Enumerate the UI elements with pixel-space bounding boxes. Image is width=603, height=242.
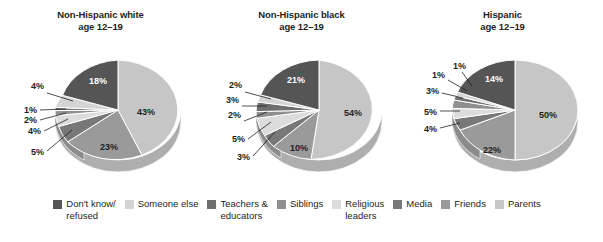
slice-value-media: 3% xyxy=(237,152,250,162)
legend-item[interactable]: Media xyxy=(393,198,432,210)
chart-panel-non-hispanic-black: Non-Hispanic black age 12–19 xyxy=(201,0,402,192)
slice-value-friends: 22% xyxy=(483,145,501,155)
slice-value-religious-leaders: 5% xyxy=(232,134,245,144)
slice-value-parents: 54% xyxy=(344,108,362,118)
pie-chart-area: 54% 10% 21% 2% 3% 2% 5% 3% xyxy=(201,38,402,192)
slice-value-dont-know: 14% xyxy=(485,74,503,84)
slice-value-media: 5% xyxy=(31,147,44,157)
legend-swatch-icon xyxy=(207,200,216,209)
slice-value-teachers-educators: 3% xyxy=(226,95,239,105)
legend-item-label: Siblings xyxy=(290,198,323,210)
panel-title-line1: Hispanic xyxy=(402,9,603,21)
slice-value-siblings: 3% xyxy=(426,86,439,96)
slice-value-friends: 23% xyxy=(100,142,118,152)
slice-value-someone-else: 1% xyxy=(453,61,466,71)
legend-item[interactable]: Don't know/ refused xyxy=(53,198,115,221)
legend-item-label: Parents xyxy=(508,198,541,210)
slice-value-parents: 50% xyxy=(539,110,557,120)
chart-legend: Don't know/ refusedSomeone elseTeachers … xyxy=(0,193,603,242)
legend-item[interactable]: Teachers & educators xyxy=(207,198,268,221)
slice-value-religious-leaders: 4% xyxy=(28,126,41,136)
legend-swatch-icon xyxy=(332,200,341,209)
panel-title-line2: age 12–19 xyxy=(201,21,402,33)
legend-swatch-icon xyxy=(393,200,402,209)
legend-item[interactable]: Siblings xyxy=(277,198,323,210)
slice-value-someone-else: 2% xyxy=(229,80,242,90)
slice-value-friends: 10% xyxy=(290,143,308,153)
pie-chart-area: 50% 22% 14% 1% 1% 3% 5% 4% xyxy=(402,38,603,192)
pie-chart-area: 43% 23% 18% 4% 1% 2% 4% 5% xyxy=(0,38,201,192)
legend-swatch-icon xyxy=(277,200,286,209)
chart-panel-hispanic: Hispanic age 12–19 xyxy=(402,0,603,192)
slice-value-dont-know: 18% xyxy=(89,76,107,86)
slice-parents xyxy=(311,60,372,159)
legend-swatch-icon xyxy=(441,200,450,209)
pie-svg: 54% 10% 21% 2% 3% 2% 5% 3% xyxy=(201,38,402,192)
legend-item[interactable]: Religious leaders xyxy=(332,198,384,221)
panel-title-line2: age 12–19 xyxy=(0,21,201,33)
legend-item-label: Religious leaders xyxy=(345,198,384,221)
panel-title: Non-Hispanic white age 12–19 xyxy=(0,9,201,32)
slice-value-siblings: 2% xyxy=(228,110,241,120)
pie-charts-row: Non-Hispanic white age 12–19 xyxy=(0,0,603,192)
legend-item-label: Media xyxy=(406,198,432,210)
slice-value-religious-leaders: 5% xyxy=(424,107,437,117)
slice-value-teachers-educators: 1% xyxy=(24,105,37,115)
pie-svg: 43% 23% 18% 4% 1% 2% 4% 5% xyxy=(0,38,201,192)
legend-item[interactable]: Someone else xyxy=(125,198,199,210)
legend-swatch-icon xyxy=(53,200,62,209)
legend-item[interactable]: Parents xyxy=(495,198,541,210)
panel-title-line1: Non-Hispanic white xyxy=(0,9,201,21)
panel-title: Hispanic age 12–19 xyxy=(402,9,603,32)
slice-value-someone-else: 4% xyxy=(31,81,44,91)
slice-value-dont-know: 21% xyxy=(287,75,305,85)
legend-item-label: Teachers & educators xyxy=(220,198,268,221)
panel-title-line1: Non-Hispanic black xyxy=(201,9,402,21)
legend-item-label: Don't know/ refused xyxy=(66,198,115,221)
slice-value-siblings: 2% xyxy=(24,115,37,125)
legend-swatch-icon xyxy=(125,200,134,209)
slice-value-media: 4% xyxy=(424,124,437,134)
slice-value-parents: 43% xyxy=(137,107,155,117)
legend-swatch-icon xyxy=(495,200,504,209)
legend-item[interactable]: Friends xyxy=(441,198,486,210)
legend-item-label: Friends xyxy=(454,198,486,210)
slice-value-teachers-educators: 1% xyxy=(432,70,445,80)
panel-title: Non-Hispanic black age 12–19 xyxy=(201,9,402,32)
pie-svg: 50% 22% 14% 1% 1% 3% 5% 4% xyxy=(402,38,603,192)
panel-title-line2: age 12–19 xyxy=(402,21,603,33)
legend-item-label: Someone else xyxy=(138,198,199,210)
chart-panel-non-hispanic-white: Non-Hispanic white age 12–19 xyxy=(0,0,201,192)
